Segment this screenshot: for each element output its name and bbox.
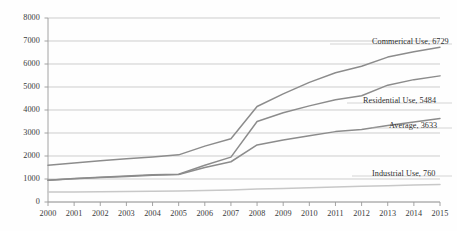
- xtick-label: 2015: [425, 209, 455, 218]
- series-label-2: Average, 3633: [389, 121, 437, 130]
- ytick-mark-group: [45, 18, 49, 202]
- series-label-3: Industrial Use, 760: [372, 169, 435, 178]
- chart-plot-area: [0, 0, 457, 231]
- ytick-label: 2000: [6, 151, 40, 160]
- series-line-3: [48, 185, 440, 193]
- ytick-label: 3000: [6, 128, 40, 137]
- ytick-label: 4000: [6, 105, 40, 114]
- xtick-mark-group: [48, 202, 440, 206]
- series-line-0: [48, 47, 440, 165]
- series-label-0: Commerical Use, 6729: [372, 37, 449, 46]
- series-label-1: Residential Use, 5484: [363, 96, 436, 105]
- ytick-label: 5000: [6, 82, 40, 91]
- line-chart: 010002000300040005000600070008000 200020…: [0, 0, 457, 231]
- ytick-label: 7000: [6, 36, 40, 45]
- ytick-label: 1000: [6, 174, 40, 183]
- ytick-label: 0: [6, 197, 40, 206]
- ytick-label: 8000: [6, 13, 40, 22]
- ytick-label: 6000: [6, 59, 40, 68]
